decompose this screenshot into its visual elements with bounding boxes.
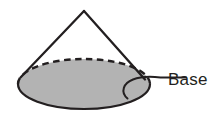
base-label: Base bbox=[168, 70, 208, 89]
cone-diagram-canvas: Base bbox=[0, 0, 218, 119]
cone-diagram-svg: Base bbox=[0, 0, 218, 119]
